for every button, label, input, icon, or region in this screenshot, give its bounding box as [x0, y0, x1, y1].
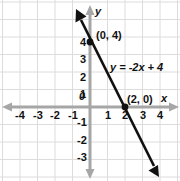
- y-tick-label-minus-3: -3: [77, 152, 87, 163]
- graph-canvas: [0, 0, 180, 181]
- y-tick-label-2: 2: [80, 72, 86, 83]
- y-tick-label-4: 4: [80, 37, 86, 48]
- point-label-y-intercept: (0, 4): [96, 30, 122, 41]
- x-tick-label-minus-3: -3: [33, 110, 43, 121]
- equation-label: y = -2x + 4: [110, 62, 163, 73]
- y-tick-label-3: 3: [80, 54, 86, 65]
- x-axis-label: x: [161, 93, 167, 104]
- point-marker-y-intercept: [87, 39, 94, 46]
- y-axis-label: y: [95, 6, 101, 17]
- x-tick-label-4: 4: [157, 110, 163, 121]
- point-label-x-intercept: (2, 0): [127, 94, 153, 105]
- y-tick-label-minus-1: -1: [77, 117, 87, 128]
- x-tick-label-3: 3: [140, 110, 146, 121]
- x-tick-label-minus-4: -4: [15, 110, 25, 121]
- y-tick-label-1: 1: [80, 89, 86, 100]
- x-tick-label-minus-2: -2: [50, 110, 60, 121]
- coordinate-plane-graph: y x 0 -4 -3 -2 -1 1 2 3 4 4 3 2 1 -1 -2 …: [0, 0, 180, 181]
- y-tick-label-minus-2: -2: [77, 135, 87, 146]
- x-tick-label-2: 2: [122, 110, 128, 121]
- x-tick-label-1: 1: [105, 110, 111, 121]
